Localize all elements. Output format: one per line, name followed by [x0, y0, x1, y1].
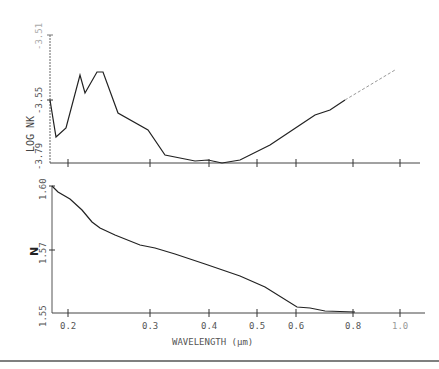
- top-ytick-mid: -3.55: [34, 87, 44, 114]
- bottom-y-axis-title: N: [28, 247, 41, 256]
- x-axis-title: WAVELENGTH (μm): [172, 337, 253, 347]
- bottom-ytick-bottom: 1.55: [38, 305, 48, 327]
- top-panel: -3.79 -3.55 -3.51 LOG NK: [25, 23, 420, 170]
- x-tick-labels: 0.2 0.3 0.4 0.5 0.6 0.8 1.0: [60, 321, 408, 331]
- bottom-panel: 1.60 1.57 1.55 N 0.2 0.3 0.4 0.5 0.6 0.8…: [28, 178, 425, 347]
- bottom-curve-n: [52, 186, 355, 312]
- top-curve-log-nk: [50, 72, 345, 163]
- top-y-axis-title: LOG NK: [25, 116, 36, 152]
- xtick-1-0: 1.0: [392, 321, 408, 331]
- xtick-0-4: 0.4: [201, 321, 217, 331]
- top-curve-log-nk-faint: [345, 70, 395, 100]
- bottom-ytick-top: 1.60: [38, 178, 48, 200]
- figure: -3.79 -3.55 -3.51 LOG NK 1.60 1.57 1.55 …: [0, 0, 439, 369]
- xtick-0-5: 0.5: [249, 321, 265, 331]
- xtick-0-3: 0.3: [142, 321, 158, 331]
- xtick-0-6: 0.6: [288, 321, 304, 331]
- xtick-0-2: 0.2: [60, 321, 76, 331]
- xtick-0-8: 0.8: [345, 321, 361, 331]
- top-ytick-top: -3.51: [34, 23, 44, 50]
